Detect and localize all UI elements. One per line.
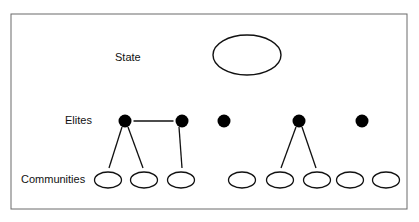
elite-node-e5 <box>356 115 369 128</box>
state-elites-communities-diagram: State Elites Communities <box>0 0 419 222</box>
elite-node-e3 <box>218 115 231 128</box>
state-label: State <box>115 51 141 63</box>
elite-node-e2 <box>176 115 189 128</box>
elite-node-e4 <box>293 115 306 128</box>
elites-label: Elites <box>65 114 92 126</box>
communities-label: Communities <box>21 173 86 185</box>
elite-node-e1 <box>119 115 132 128</box>
